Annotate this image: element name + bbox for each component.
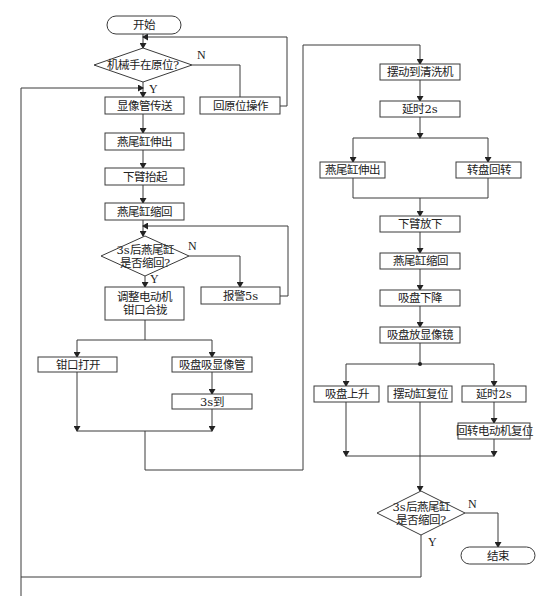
no-branch-label: N [188,239,197,253]
node-r7: 吸盘下降 [380,290,460,306]
node-label: 钳口打开 [56,358,100,372]
node-label: 摆动缸复位 [393,387,448,401]
node-label: 机械手在原位? [107,58,179,72]
connector-line [465,513,498,547]
connector-line [21,535,421,577]
node-label: 燕尾缸缩回 [117,205,172,219]
node-start: 开始 [107,16,181,34]
node-n2: 燕尾缸伸出 [105,133,184,150]
flowchart-svg: 开始机械手在原位?回原位操作显像管传送燕尾缸伸出下臂抬起燕尾缸缩回3s后燕尾缸是… [0,0,553,596]
node-n_alarm: 报警5s [201,287,280,304]
node-label: 结束 [487,549,510,563]
node-r2: 延时2s [380,101,460,117]
node-n4: 燕尾缸缩回 [105,203,184,220]
node-label: 转盘回转 [467,163,512,177]
node-label: 回转电动机复位 [456,424,533,438]
node-label: 3s后燕尾缸 [392,500,450,514]
connector-line [189,256,240,287]
node-n3: 下臂抬起 [105,168,184,185]
node-label: 燕尾缸伸出 [325,163,380,177]
node-n8: 3s到 [172,394,252,409]
node-n_return: 回原位操作 [200,97,280,114]
node-d1: 机械手在原位? [94,48,192,82]
node-label: 下臂抬起 [123,170,168,184]
node-label: 吸盘下降 [398,291,443,305]
node-label: 吸盘放显像镜 [387,328,454,342]
node-label: 燕尾缸伸出 [117,135,172,149]
node-label: 显像管传送 [117,99,173,113]
no-branch-label: N [197,48,206,62]
node-label: 报警5s [223,289,258,303]
node-label: 下臂放下 [398,217,442,231]
node-label: 燕尾缸缩回 [393,254,448,268]
connector-line [192,65,240,97]
node-label: 回原位操作 [213,99,269,113]
node-label: 调整电动机 [117,290,173,304]
junction-dot [418,362,422,366]
node-n7: 吸盘吸显像管 [172,357,252,372]
yes-branch-label: Y [149,82,158,96]
node-r5: 下臂放下 [380,216,460,232]
yes-branch-label: Y [150,272,159,286]
node-d2: 3s后燕尾缸是否缩回? [101,236,189,276]
node-d3: 3s后燕尾缸是否缩回? [377,491,465,535]
connector-line [21,88,143,596]
node-label: 3s后燕尾缸 [116,243,174,257]
flowchart-canvas: 开始机械手在原位?回原位操作显像管传送燕尾缸伸出下臂抬起燕尾缸缩回3s后燕尾缸是… [0,0,553,596]
node-r3: 燕尾缸伸出 [320,162,385,178]
node-label: 延时2s [402,102,437,116]
node-label: 摆动到清洗机 [387,65,454,79]
connector-line [353,178,488,198]
node-label: 钳口合拢 [123,303,168,317]
node-label: 是否缩回? [120,256,170,270]
node-r8: 吸盘放显像镜 [380,327,460,343]
no-branch-label: N [468,497,477,511]
yes-branch-label: Y [428,535,437,549]
node-label: 3s到 [200,395,224,409]
node-n6: 钳口打开 [38,357,117,372]
node-r9: 吸盘上升 [314,386,379,402]
node-label: 开始 [133,18,156,32]
node-r12: 回转电动机复位 [456,423,533,439]
node-r1: 摆动到清洗机 [380,64,460,80]
node-r11: 延时2s [462,386,526,402]
node-n5: 调整电动机钳口合拢 [105,287,184,320]
node-r4: 转盘回转 [456,162,521,178]
node-r6: 燕尾缸缩回 [380,253,460,269]
node-end: 结束 [461,547,535,564]
node-label: 吸盘上升 [325,387,369,401]
node-label: 是否缩回? [396,513,446,527]
node-label: 延时2s [476,387,511,401]
node-label: 吸盘吸显像管 [179,358,245,372]
node-r10: 摆动缸复位 [388,386,452,402]
node-n1: 显像管传送 [105,97,184,114]
